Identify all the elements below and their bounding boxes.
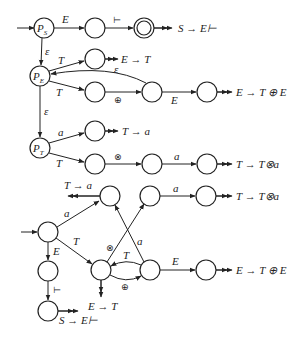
state-na-bottom — [100, 186, 120, 206]
state-nt-bottom — [91, 260, 111, 280]
edge-label: a — [64, 207, 70, 219]
reduction-label: T → T⊗a — [236, 190, 280, 202]
state-ne2-bottom — [196, 260, 216, 280]
edge-label: ε — [45, 45, 50, 57]
edge-label: E — [61, 13, 69, 25]
automaton-diagram: PS E ⊢ S → E⊢ ε PE T E → T T ⊕ ε E E → T… — [0, 0, 297, 342]
edge-label: a — [58, 126, 64, 138]
reduction-label: E → T ⊕ E — [235, 86, 287, 98]
reduction-label: T → a — [64, 179, 92, 191]
edge-label: T — [58, 54, 65, 66]
edge-nplus-pe — [51, 71, 146, 83]
edge-nt-nplus — [110, 275, 141, 280]
edge-label: E — [171, 255, 179, 267]
state-nt2 — [85, 82, 105, 102]
edge-label: ε — [114, 63, 119, 75]
reduction-label: S → E⊢ — [59, 314, 98, 326]
state-na — [85, 121, 105, 141]
reduction-label: E → T — [120, 53, 151, 65]
reduction-label: T → T⊗a — [236, 158, 280, 170]
edge-label: a — [137, 235, 143, 247]
edge-label: ⊗ — [106, 243, 114, 253]
state-ne-bottom — [38, 261, 58, 281]
edge-pe-nt2 — [49, 81, 84, 90]
state-ntimes — [142, 154, 162, 174]
reduction-label: S → E⊢ — [178, 22, 217, 34]
state-final-inner-ring — [137, 21, 151, 35]
state-nplus-bottom — [140, 260, 160, 280]
edge-label: E — [170, 94, 178, 106]
state-na2-bottom — [196, 186, 216, 206]
edge-label: ⊢ — [113, 15, 121, 25]
edge-nplus-na — [115, 205, 144, 262]
edge-label: a — [173, 182, 179, 194]
edge-label: ⊗ — [114, 152, 122, 162]
state-nt3 — [85, 154, 105, 174]
reduction-label: E → T ⊕ E — [235, 264, 287, 276]
reduction-label: T → a — [122, 125, 150, 137]
edge-ps-pe — [41, 38, 42, 65]
edge-label: T — [123, 249, 130, 261]
edge-pe-nt1 — [49, 61, 84, 71]
reduction-label: E → T — [87, 300, 118, 312]
state-ne — [197, 82, 217, 102]
edge-label: ⊢ — [53, 285, 61, 295]
edge-label: T — [56, 157, 63, 169]
state-na2 — [197, 154, 217, 174]
state-nt1 — [85, 49, 105, 69]
edge-label: ⊕ — [121, 282, 129, 292]
edge-label: E — [52, 245, 60, 257]
edge-label: T — [56, 86, 63, 98]
state-final-bottom — [38, 301, 58, 321]
edge-nplus-nt — [111, 262, 141, 266]
edge-label: a — [174, 150, 180, 162]
edge-label: ⊕ — [114, 95, 122, 105]
edge-pt-na — [49, 133, 84, 143]
state-start-bottom — [38, 222, 58, 242]
edge-label: ε — [44, 105, 49, 117]
state-nplus — [142, 82, 162, 102]
state-n1 — [85, 18, 105, 38]
edge-pt-nt3 — [49, 153, 84, 162]
state-ntimes-bottom — [140, 186, 160, 206]
edge-label: T — [73, 235, 80, 247]
